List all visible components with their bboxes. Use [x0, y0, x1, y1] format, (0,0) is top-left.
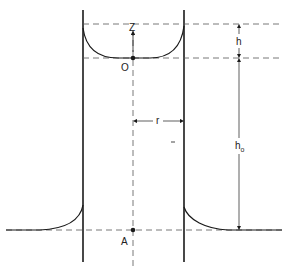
capillary-diagram: Z O A r h ho [0, 0, 288, 274]
right-outer-meniscus [184, 207, 282, 230]
z-label: Z [129, 22, 135, 33]
point-a [131, 228, 136, 233]
origin-point [131, 56, 136, 61]
origin-label: O [121, 62, 129, 73]
left-outer-meniscus [6, 205, 83, 230]
point-a-label: A [121, 236, 128, 247]
h-label: h [236, 36, 242, 47]
